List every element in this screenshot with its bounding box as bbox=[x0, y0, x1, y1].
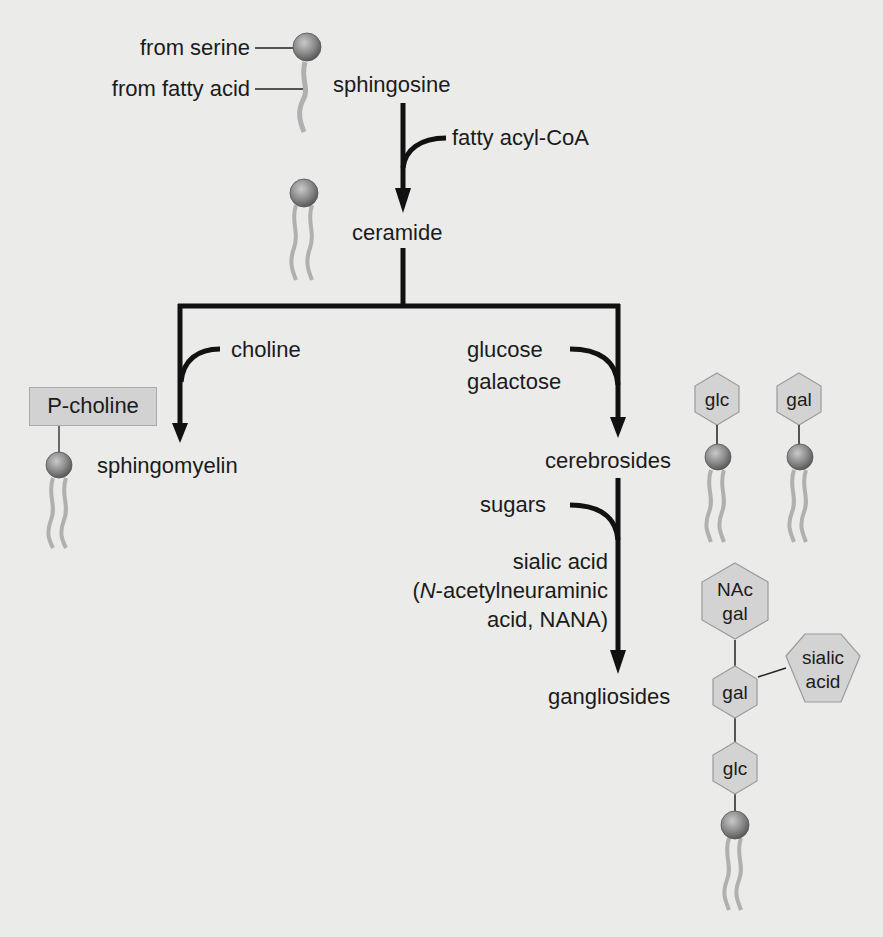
node-cerebrosides: cerebrosides bbox=[545, 448, 671, 474]
hex-label-sialic-line1: sialic bbox=[793, 647, 853, 668]
annotation-from-serine: from serine bbox=[90, 35, 250, 61]
nana-italic-n: N bbox=[420, 578, 436, 603]
input-sugars: sugars bbox=[480, 492, 546, 518]
hex-label-gal-core: gal bbox=[713, 682, 757, 703]
nana-line1-rest: -acetylneuraminic bbox=[436, 578, 608, 603]
sphingosine-molecule-icon bbox=[255, 33, 321, 132]
sphingomyelin-molecule-icon bbox=[46, 425, 72, 548]
arrow-cerebrosides-to-gangliosides bbox=[570, 478, 626, 674]
ceramide-molecule-icon bbox=[290, 179, 318, 280]
input-nana-line1: (N-acetylneuraminic bbox=[380, 578, 608, 604]
nana-open-paren: ( bbox=[412, 578, 419, 603]
input-fatty-acyl-coa: fatty acyl-CoA bbox=[452, 125, 589, 151]
input-galactose: galactose bbox=[467, 369, 561, 395]
hex-label-glc-core: glc bbox=[713, 758, 757, 779]
input-sialic-acid: sialic acid bbox=[400, 549, 608, 575]
hex-label-nac-line1: NAc bbox=[702, 579, 768, 600]
annotation-from-fatty-acid: from fatty acid bbox=[60, 76, 250, 102]
node-ceramide: ceramide bbox=[352, 220, 442, 246]
arrow-sphingosine-to-ceramide bbox=[395, 103, 446, 213]
hex-label-glc: glc bbox=[695, 389, 739, 410]
hex-label-sialic-line2: acid bbox=[793, 671, 853, 692]
branch-connector bbox=[178, 248, 620, 308]
node-sphingosine: sphingosine bbox=[333, 72, 450, 98]
arrow-ceramide-to-sphingomyelin bbox=[172, 304, 220, 443]
p-choline-box: P-choline bbox=[29, 387, 157, 426]
node-sphingomyelin: sphingomyelin bbox=[97, 453, 238, 479]
hex-label-gal: gal bbox=[777, 389, 821, 410]
arrow-ceramide-to-cerebrosides bbox=[570, 304, 626, 438]
node-gangliosides: gangliosides bbox=[548, 684, 670, 710]
input-glucose: glucose bbox=[467, 337, 543, 363]
hex-label-nac-line2: gal bbox=[702, 603, 768, 624]
input-choline: choline bbox=[231, 337, 301, 363]
input-nana-line2: acid, NANA) bbox=[400, 607, 608, 633]
